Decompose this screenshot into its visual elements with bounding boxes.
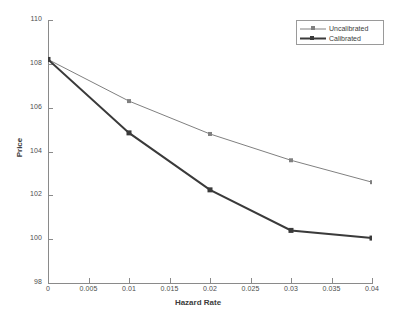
legend-label-calibrated: Calibrated [329,34,361,43]
series-line [48,59,372,182]
x-tick-label: 0.04 [352,285,392,292]
x-tick-label: 0.02 [190,285,230,292]
data-point-marker [208,132,212,136]
data-point-marker [289,158,293,162]
data-point-marker [370,180,372,184]
data-point-marker [370,236,373,241]
series-uncalibrated [48,57,372,184]
legend-swatch-calibrated [300,34,326,43]
y-tick-label: 98 [12,278,42,285]
legend-item-uncalibrated: Uncalibrated [300,23,380,33]
x-tick-label: 0.015 [150,285,190,292]
x-axis-title: Hazard Rate [0,298,396,307]
x-tick-label: 0.025 [231,285,271,292]
y-tick-label: 102 [12,190,42,197]
chart-legend: Uncalibrated Calibrated [296,20,384,45]
legend-label-uncalibrated: Uncalibrated [329,24,368,33]
x-tick-label: 0.035 [312,285,352,292]
data-point-marker [208,187,213,192]
data-point-marker [127,99,131,103]
y-tick-label: 100 [12,234,42,241]
legend-item-calibrated: Calibrated [300,33,380,43]
y-tick-label: 110 [12,15,42,22]
x-axis-line [48,283,373,284]
x-tick-label: 0.005 [69,285,109,292]
y-tick-label: 106 [12,103,42,110]
y-axis-title: Price [15,118,24,178]
data-point-marker [48,57,51,62]
data-point-marker [127,130,132,135]
y-tick-mark [48,283,53,284]
chart-figure: 98100102104106108110 00.0050.010.0150.02… [0,0,396,321]
series-line [48,59,372,238]
legend-swatch-uncalibrated [300,24,326,33]
data-point-marker [289,228,294,233]
x-tick-label: 0.01 [109,285,149,292]
series-canvas [48,20,372,283]
x-tick-label: 0 [28,285,68,292]
y-tick-label: 108 [12,59,42,66]
x-tick-label: 0.03 [271,285,311,292]
x-tick-mark [372,278,373,283]
plot-area [48,20,372,283]
